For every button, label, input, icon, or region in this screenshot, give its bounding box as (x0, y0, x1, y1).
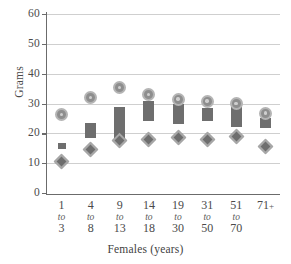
y-tick-label: 60 (18, 8, 40, 20)
circle-marker (55, 108, 68, 121)
x-axis-line (46, 194, 280, 195)
x-tick-label-lo: 71 (257, 198, 269, 212)
range-bar (143, 101, 154, 122)
circle-marker (142, 88, 155, 101)
x-axis-title: Females (years) (0, 243, 291, 255)
y-tick-label: 10 (18, 157, 40, 169)
diamond-marker (83, 142, 99, 158)
x-tick-label-to: + (269, 201, 274, 211)
y-tick-mark (42, 133, 47, 134)
y-tick-mark (42, 14, 47, 15)
circle-marker (259, 107, 272, 120)
y-tick-mark (42, 193, 47, 194)
circle-marker (201, 95, 214, 108)
y-axis-title: Grams (13, 37, 25, 127)
gridline (47, 44, 280, 45)
range-bar (173, 104, 184, 124)
y-tick-label: 20 (18, 127, 40, 139)
gridline (47, 74, 280, 75)
circle-marker (84, 91, 97, 104)
y-tick-label: 0 (18, 187, 40, 199)
y-tick-mark (42, 74, 47, 75)
range-bar (202, 108, 213, 121)
range-bar (85, 123, 96, 138)
range-bar (231, 107, 242, 127)
circle-marker (172, 93, 185, 106)
gridline (47, 104, 280, 105)
gridline (47, 133, 280, 134)
y-tick-label: 30 (18, 98, 40, 110)
gridline (47, 14, 280, 15)
diamond-marker (54, 154, 70, 170)
plot-area (47, 14, 280, 193)
x-tick-label: 71+ (245, 199, 285, 212)
y-tick-mark (42, 44, 47, 45)
y-tick-label: 40 (18, 68, 40, 80)
y-tick-mark (42, 163, 47, 164)
circle-marker (230, 97, 243, 110)
range-bar (58, 143, 66, 149)
gridline (47, 163, 280, 164)
circle-marker (113, 81, 126, 94)
diamond-marker (229, 128, 245, 144)
y-tick-label: 50 (18, 38, 40, 50)
diamond-marker (258, 139, 274, 155)
diamond-marker (170, 129, 186, 145)
chart-container: Grams 0102030405060 1to34to89to1314to181… (0, 0, 291, 264)
y-tick-mark (42, 104, 47, 105)
x-tick-label-hi: 70 (216, 222, 256, 235)
